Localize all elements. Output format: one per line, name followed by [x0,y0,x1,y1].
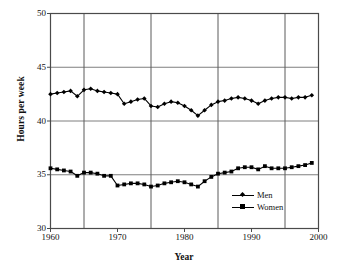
data-point-women [183,180,187,184]
data-point-men [289,96,294,101]
legend-label-men: Men [257,189,273,201]
data-point-men [236,95,241,100]
data-point-women [203,179,207,183]
data-point-men [229,96,234,101]
data-point-women [69,170,73,174]
data-point-women [55,167,59,171]
data-point-men [249,98,254,103]
data-point-women [156,184,160,188]
data-point-men [283,95,288,100]
x-tick-label: 1970 [98,233,138,242]
data-point-women [122,183,126,187]
legend-item-women: Women [232,201,304,213]
data-point-men [310,93,315,98]
y-tick-label: 35 [24,170,46,179]
data-point-women [196,185,200,189]
y-tick-label: 40 [24,117,46,126]
data-point-women [176,179,180,183]
x-axis-tick-labels: 19601970198019902000 [0,233,338,247]
data-point-women [290,165,294,169]
legend-marker-diamond-icon [232,190,254,200]
data-point-women [223,171,227,175]
y-tick-label: 45 [24,63,46,72]
data-point-women [189,183,193,187]
data-point-women [230,170,234,174]
data-point-men [176,100,181,105]
data-point-men [243,96,248,101]
data-point-men [129,99,134,104]
data-point-women [297,164,301,168]
data-point-women [116,184,120,188]
data-point-men [169,99,174,104]
legend-marker-square-icon [232,202,254,212]
data-point-men [303,95,308,100]
data-point-women [236,166,240,170]
data-point-women [283,166,287,170]
x-tick-label: 1990 [232,233,272,242]
chart-figure: Hours per week Year 3035404550 196019701… [0,0,338,275]
data-point-men [88,86,93,91]
legend-item-men: Men [232,189,304,201]
data-point-women [82,171,86,175]
data-point-women [243,165,247,169]
data-point-men [276,95,281,100]
data-point-men [95,89,100,94]
x-tick-label: 2000 [299,233,338,242]
data-point-men [263,98,268,103]
data-point-women [303,163,307,167]
data-point-women [169,180,173,184]
data-point-women [89,171,93,175]
series-line-men [51,89,312,116]
data-point-women [310,161,314,165]
data-point-women [136,181,140,185]
x-axis-title: Year [50,252,318,262]
chart-legend: Men Women [232,189,304,213]
data-point-women [49,166,53,170]
data-point-men [102,90,107,95]
data-point-women [276,166,280,170]
data-point-men [162,102,167,107]
data-point-women [129,181,133,185]
data-point-women [149,185,153,189]
data-point-men [48,92,53,97]
data-point-men [222,98,227,103]
data-point-women [142,183,146,187]
data-point-women [163,181,167,185]
data-point-men [62,90,67,95]
data-point-women [270,166,274,170]
data-point-women [209,175,213,179]
data-point-men [256,102,261,107]
data-point-men [269,96,274,101]
data-point-men [296,95,301,100]
data-point-women [216,172,220,176]
y-tick-label: 50 [24,9,46,18]
data-point-women [102,174,106,178]
x-tick-label: 1960 [31,233,71,242]
data-point-women [109,174,113,178]
data-point-women [75,174,79,178]
data-point-women [250,165,254,169]
data-point-women [263,164,267,168]
x-tick-label: 1980 [165,233,205,242]
data-point-women [256,167,260,171]
data-point-men [155,105,160,110]
data-point-men [55,91,60,96]
data-point-men [135,97,140,102]
data-point-women [62,169,66,173]
data-point-men [216,99,221,104]
data-point-women [96,172,100,176]
data-point-men [109,91,114,96]
legend-label-women: Women [257,201,283,213]
